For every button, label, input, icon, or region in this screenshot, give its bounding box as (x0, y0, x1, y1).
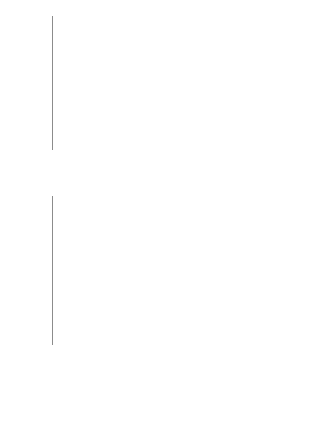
figure-avifaunal-guild-change (0, 0, 331, 443)
chart-panel-bbs-counts (0, 180, 331, 365)
x-axis-category-labels (52, 352, 331, 414)
chart-panel-atlas-blocks (0, 0, 331, 180)
plot-area-top (52, 16, 322, 150)
data-series-bottom (52, 196, 322, 345)
plot-area-bottom (52, 196, 322, 345)
data-series-top (52, 16, 322, 150)
